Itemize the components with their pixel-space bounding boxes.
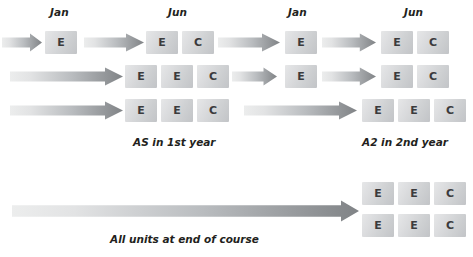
unit-box-c: C [182,31,214,54]
unit-box-c: C [434,214,466,237]
unit-box-e: E [398,214,430,237]
unit-box-label: E [146,31,178,54]
unit-box-c: C [197,65,229,88]
unit-box-e: E [146,31,178,54]
month-label: Jun [168,6,187,18]
unit-box-label: E [362,99,394,122]
unit-box-c: C [197,99,229,122]
unit-box-label: E [161,99,193,122]
unit-box-c: C [434,182,466,205]
unit-box-e: E [45,31,77,54]
caption-label: A2 in 2nd year [362,136,448,148]
unit-box-c: C [417,31,449,54]
unit-box-label: E [398,214,430,237]
unit-box-label: C [197,65,229,88]
arrow-all-units [12,200,359,222]
unit-box-label: E [45,31,77,54]
unit-box-label: E [362,182,394,205]
unit-box-label: C [417,65,449,88]
unit-box-e: E [285,31,317,54]
unit-box-label: E [161,65,193,88]
unit-box-e: E [161,65,193,88]
unit-box-label: E [398,182,430,205]
arrow-jun-to-jun-row3 [244,101,357,120]
unit-box-e: E [362,99,394,122]
exam-timeline-diagram: JanJunJanJunEECEECEECEECEECEECAS in 1st … [0,0,473,257]
arrow-start-row1 [2,33,42,52]
month-label: Jan [50,6,69,18]
unit-box-e: E [398,99,430,122]
arrow-jun-to-jan-row2 [232,67,277,86]
unit-box-label: C [434,99,466,122]
caption-label: AS in 1st year [133,136,216,148]
unit-box-e: E [381,31,413,54]
arrow-jun-to-jan-row1 [218,33,280,52]
month-label: Jun [404,6,423,18]
unit-box-label: E [381,65,413,88]
unit-box-label: E [381,31,413,54]
unit-box-e: E [362,182,394,205]
unit-box-label: E [125,99,157,122]
arrow-start-row2 [10,67,123,86]
unit-box-e: E [161,99,193,122]
unit-box-label: C [417,31,449,54]
unit-box-label: E [285,65,317,88]
unit-box-e: E [125,99,157,122]
caption-label: All units at end of course [110,233,259,245]
unit-box-e: E [125,65,157,88]
unit-box-label: E [398,99,430,122]
arrow-jan-to-jun-row2 [322,67,376,86]
arrow-jan-to-jun-row1 [84,33,144,52]
month-label: Jan [288,6,307,18]
unit-box-label: C [197,99,229,122]
unit-box-c: C [434,99,466,122]
unit-box-e: E [398,182,430,205]
arrow-jan-to-jun2-row1 [322,33,376,52]
unit-box-label: E [125,65,157,88]
unit-box-label: E [362,214,394,237]
unit-box-c: C [417,65,449,88]
unit-box-e: E [381,65,413,88]
unit-box-e: E [285,65,317,88]
unit-box-e: E [362,214,394,237]
unit-box-label: E [285,31,317,54]
arrow-start-row3 [10,101,123,120]
unit-box-label: C [434,182,466,205]
unit-box-label: C [182,31,214,54]
unit-box-label: C [434,214,466,237]
